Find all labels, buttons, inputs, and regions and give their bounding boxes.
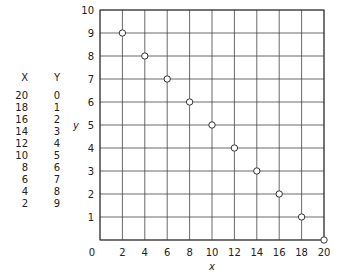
x-tick-label: 20 xyxy=(318,247,331,258)
y-tick-label: 9 xyxy=(88,28,94,39)
y-tick-label: 4 xyxy=(88,143,94,154)
y-axis-label: y xyxy=(72,120,80,131)
y-tick-label: 10 xyxy=(81,5,94,16)
x-tick-label: 6 xyxy=(164,247,170,258)
data-point-marker xyxy=(186,99,192,105)
y-tick-label: 3 xyxy=(88,166,94,177)
y-tick-label: 2 xyxy=(88,189,94,200)
data-point-marker xyxy=(164,76,170,82)
data-point-marker xyxy=(209,122,215,128)
scatter-chart: 0246810121416182012345678910xy xyxy=(0,0,340,273)
x-tick-label: 12 xyxy=(228,247,241,258)
x-tick-label: 18 xyxy=(295,247,308,258)
data-point-marker xyxy=(321,237,327,243)
x-axis-label: x xyxy=(208,261,215,272)
data-point-marker xyxy=(231,145,237,151)
data-point-marker xyxy=(254,168,260,174)
y-tick-label: 7 xyxy=(88,74,94,85)
y-tick-label: 5 xyxy=(88,120,94,131)
x-tick-label: 2 xyxy=(119,247,125,258)
data-point-marker xyxy=(276,191,282,197)
data-point-marker xyxy=(119,30,125,36)
x-tick-label: 8 xyxy=(186,247,192,258)
data-point-marker xyxy=(142,53,148,59)
x-tick-label: 14 xyxy=(250,247,263,258)
y-tick-label: 1 xyxy=(88,212,94,223)
x-tick-label: 16 xyxy=(273,247,286,258)
y-tick-label: 8 xyxy=(88,51,94,62)
y-tick-label: 6 xyxy=(88,97,94,108)
x-tick-label: 4 xyxy=(142,247,148,258)
x-tick-label: 10 xyxy=(206,247,219,258)
data-point-marker xyxy=(298,214,304,220)
x-tick-label: 0 xyxy=(89,247,95,258)
